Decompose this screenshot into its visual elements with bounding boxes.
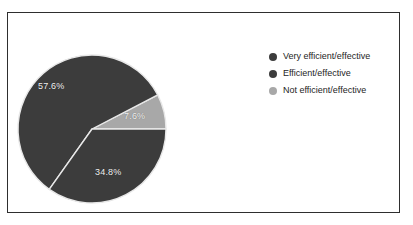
pie-chart-figure: 57.6% 34.8% 7.6% Very efficient/effectiv… xyxy=(0,0,413,225)
legend-item-label: Not efficient/effective xyxy=(283,85,366,96)
pie-svg xyxy=(14,51,170,209)
chart-legend: Very efficient/effective Efficient/effec… xyxy=(269,49,399,100)
legend-item-very-efficient-effective[interactable]: Very efficient/effective xyxy=(269,49,399,64)
legend-swatch-icon xyxy=(269,70,277,78)
legend-swatch-icon xyxy=(269,87,277,95)
legend-swatch-icon xyxy=(269,53,277,61)
legend-item-not-efficient-effective[interactable]: Not efficient/effective xyxy=(269,83,399,98)
pie-slices xyxy=(18,55,166,203)
legend-item-efficient-effective[interactable]: Efficient/effective xyxy=(269,66,399,81)
legend-item-label: Efficient/effective xyxy=(283,68,351,79)
legend-item-label: Very efficient/effective xyxy=(283,51,370,62)
